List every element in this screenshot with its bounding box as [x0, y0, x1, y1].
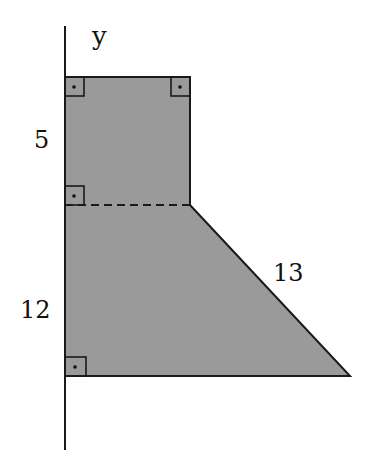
side-label-lower: 12: [20, 296, 51, 324]
diagram-canvas: y 5 12 13: [0, 0, 380, 465]
axis-label-y: y: [91, 21, 107, 51]
side-label-upper: 5: [34, 126, 49, 154]
shaded-region: [65, 77, 350, 376]
side-label-slanted: 13: [273, 259, 304, 287]
